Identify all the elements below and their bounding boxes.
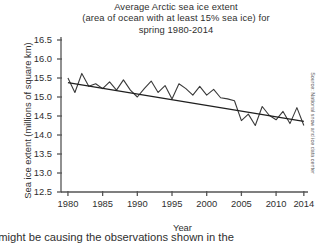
data-series-line	[68, 73, 304, 125]
page-caption: t might be causing the observations show…	[0, 231, 234, 243]
plot-area	[0, 0, 326, 247]
chart-figure: Average Arctic sea ice extent (area of o…	[0, 0, 326, 247]
